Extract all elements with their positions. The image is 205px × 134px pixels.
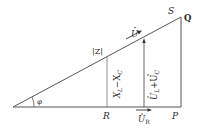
phi-angle-arc	[32, 97, 34, 107]
u-dot	[134, 27, 135, 28]
label-ul-uc: UL+UC	[149, 70, 160, 100]
label-p: P	[171, 111, 179, 121]
label-s: S	[168, 6, 174, 16]
label-u: U	[131, 29, 139, 39]
svg-text:XL−XC: XL−XC	[112, 70, 123, 99]
label-xl-xc: XL−XC	[112, 70, 123, 99]
uc-dot	[147, 74, 148, 75]
ul-uc-arrowhead-icon	[142, 38, 145, 43]
label-phi: φ	[37, 98, 42, 106]
label-r: R	[102, 111, 110, 121]
ur-dot	[141, 113, 142, 114]
ur-arrowhead-icon	[148, 108, 153, 111]
svg-text:UL+UC: UL+UC	[149, 70, 160, 100]
ul-dot	[147, 96, 148, 97]
label-ur: UR	[138, 114, 150, 125]
label-q: Q	[184, 13, 192, 23]
label-z: |Z|	[92, 47, 103, 56]
impedance-triangle-diagram: S Q |Z| U XL−XC UL+UC R UR P φ	[0, 0, 205, 134]
